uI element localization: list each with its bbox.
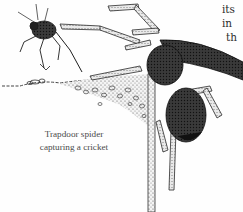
caption-line: Trapdoor spider bbox=[24, 128, 124, 141]
body-text-fragment: its in th bbox=[222, 2, 243, 44]
burrow-wall bbox=[148, 74, 155, 212]
cricket bbox=[18, 4, 82, 72]
body-text-line: in bbox=[222, 16, 243, 30]
figure-caption: Trapdoor spider capturing a cricket bbox=[24, 128, 124, 154]
spider-cricket-illustration bbox=[0, 0, 243, 212]
body-text-line: its bbox=[222, 2, 243, 16]
book-page: its in th Trapdoor spider capturing a cr… bbox=[0, 0, 243, 212]
caption-line: capturing a cricket bbox=[24, 141, 124, 154]
body-text-line: th bbox=[222, 30, 243, 44]
burrow-earth bbox=[60, 74, 152, 130]
